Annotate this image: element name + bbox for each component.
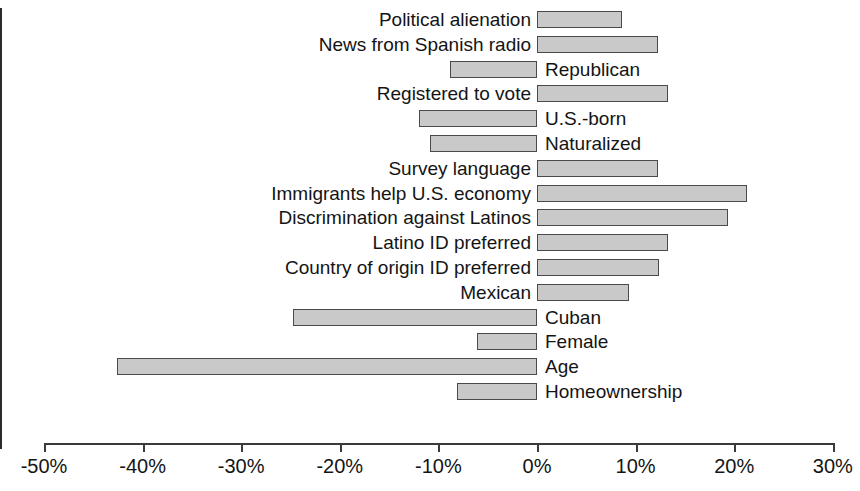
plot-area: Political alienationNews from Spanish ra… — [0, 0, 860, 445]
bar-category-label: U.S.-born — [545, 107, 860, 132]
x-axis-tick-label: 30% — [813, 455, 853, 478]
bar — [430, 135, 537, 152]
x-axis-tick — [340, 443, 342, 452]
bar-row: Age — [0, 355, 860, 380]
bar-category-label: Mexican — [0, 281, 531, 306]
x-axis-tick — [636, 443, 638, 452]
bar-category-label: Cuban — [545, 306, 860, 331]
bar-row: Latino ID preferred — [0, 231, 860, 256]
x-axis-tick-label: -40% — [119, 455, 166, 478]
bar-category-label: Homeownership — [545, 380, 860, 405]
bar-row: Mexican — [0, 281, 860, 306]
bar-category-label: Registered to vote — [0, 82, 531, 107]
bar-category-label: Naturalized — [545, 132, 860, 157]
x-axis-tick-label: -20% — [316, 455, 363, 478]
bar-row: Immigrants help U.S. economy — [0, 182, 860, 207]
x-axis-tick — [241, 443, 243, 452]
x-axis-tick-label: 0% — [523, 455, 552, 478]
bar-row: Discrimination against Latinos — [0, 206, 860, 231]
bar — [537, 259, 659, 276]
x-axis: -50%-40%-30%-20%-10%0%10%20%30% — [0, 443, 860, 491]
bar-category-label: Survey language — [0, 157, 531, 182]
bar-row: Female — [0, 330, 860, 355]
bar-category-label: Age — [545, 355, 860, 380]
bar — [457, 383, 537, 400]
x-axis-tick — [143, 443, 145, 452]
bar-row: Country of origin ID preferred — [0, 256, 860, 281]
bar-row: Republican — [0, 58, 860, 83]
x-axis-tick — [734, 443, 736, 452]
bar — [117, 358, 537, 375]
bar-row: News from Spanish radio — [0, 33, 860, 58]
bar — [537, 234, 668, 251]
horizontal-bar-chart: Political alienationNews from Spanish ra… — [0, 0, 860, 491]
x-axis-tick — [44, 443, 46, 452]
bar — [537, 209, 728, 226]
x-axis-tick-label: 10% — [616, 455, 656, 478]
bar-category-label: Immigrants help U.S. economy — [0, 182, 531, 207]
bar-category-label: Discrimination against Latinos — [0, 206, 531, 231]
bar — [419, 110, 537, 127]
x-axis-tick-label: -30% — [218, 455, 265, 478]
x-axis-tick-label: -50% — [21, 455, 68, 478]
x-axis-tick — [537, 443, 539, 452]
x-axis-tick-label: 20% — [714, 455, 754, 478]
bar-category-label: Country of origin ID preferred — [0, 256, 531, 281]
bar-row: Political alienation — [0, 8, 860, 33]
bar — [537, 85, 668, 102]
bar — [477, 333, 537, 350]
bar-row: Cuban — [0, 306, 860, 331]
bar-row: Registered to vote — [0, 82, 860, 107]
bar-row: Homeownership — [0, 380, 860, 405]
bar — [537, 284, 629, 301]
bar — [537, 11, 622, 28]
bar — [537, 36, 658, 53]
bar — [537, 185, 747, 202]
bar — [293, 309, 537, 326]
bar-category-label: Latino ID preferred — [0, 231, 531, 256]
bar-category-label: News from Spanish radio — [0, 33, 531, 58]
bar-row: U.S.-born — [0, 107, 860, 132]
x-axis-tick — [833, 443, 835, 452]
bar — [537, 160, 658, 177]
bar-row: Naturalized — [0, 132, 860, 157]
bar-row: Survey language — [0, 157, 860, 182]
x-axis-tick — [438, 443, 440, 452]
bar-category-label: Female — [545, 330, 860, 355]
x-axis-tick-label: -10% — [415, 455, 462, 478]
bar — [450, 61, 537, 78]
bar-category-label: Republican — [545, 58, 860, 83]
bar-category-label: Political alienation — [0, 8, 531, 33]
